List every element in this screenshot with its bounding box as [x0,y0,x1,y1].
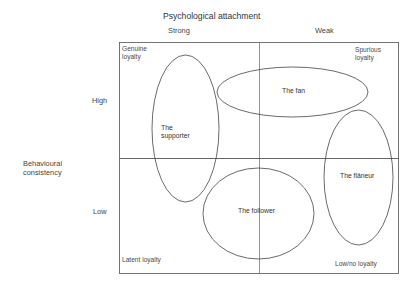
genuine-loyalty-line2: loyalty [122,53,147,61]
segment-supporter-label: The supporter [161,124,190,140]
x-axis-weak-label: Weak [315,27,334,36]
spurious-loyalty-line1: Spurious [355,46,381,54]
loyalty-matrix-drawing [0,0,420,287]
y-axis-title-line2: consistency [23,169,62,178]
y-axis-title: Behavioural consistency [23,160,62,177]
segment-fan-label: The fan [282,87,305,95]
quadrant-genuine-loyalty: Genuine loyalty [122,45,147,60]
genuine-loyalty-line1: Genuine [122,45,147,53]
x-axis-title: Psychological attachment [163,12,260,22]
supporter-label-line2: supporter [161,132,190,140]
segment-flaneur-label: The flâneur [340,172,374,180]
supporter-label-line1: The [161,124,190,132]
quadrant-low-no-loyalty: Low/no loyalty [335,260,377,268]
x-axis-strong-label: Strong [168,27,190,36]
y-axis-high-label: High [92,97,107,106]
spurious-loyalty-line2: loyalty [355,54,381,62]
quadrant-latent-loyalty: Latent loyalty [122,256,161,264]
segment-follower-label: The follower [238,207,275,215]
y-axis-low-label: Low [93,208,107,217]
quadrant-spurious-loyalty: Spurious loyalty [355,46,381,61]
